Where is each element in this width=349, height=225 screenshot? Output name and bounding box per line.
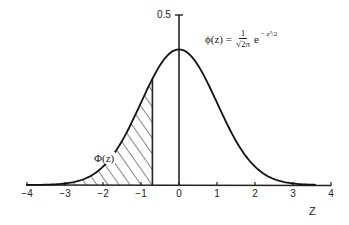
x-tick-label: −4 (21, 188, 32, 199)
pdf-curve (27, 49, 316, 185)
x-tick-label: 1 (214, 188, 220, 199)
formula-numerator: 1 (239, 28, 248, 39)
pdf-formula: ϕ(z) = 1 √2π e− z²/2 (205, 28, 277, 49)
shaded-cdf-area (27, 79, 152, 185)
x-tick-label: 0 (176, 188, 182, 199)
shaded-area-label: Φ(z) (93, 152, 115, 164)
formula-fraction: 1 √2π (236, 28, 250, 49)
formula-exponent: − z²/2 (261, 30, 277, 38)
x-tick-label: 3 (290, 188, 296, 199)
y-tick-label-0.5: 0.5 (157, 9, 171, 20)
x-tick-label: −2 (97, 188, 108, 199)
formula-exp-base: e (254, 33, 259, 45)
formula-lhs: ϕ(z) = (205, 33, 232, 45)
formula-denominator: √2π (236, 39, 250, 49)
x-tick-label: −1 (135, 188, 146, 199)
normal-distribution-plot (0, 0, 349, 225)
x-tick-label: 2 (252, 188, 258, 199)
x-axis-title: Z (309, 205, 316, 217)
x-tick-label: −3 (59, 188, 70, 199)
x-tick-label: 4 (328, 188, 334, 199)
